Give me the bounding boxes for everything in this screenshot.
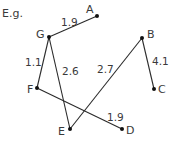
node-d-dot [120, 127, 124, 131]
node-f-dot [35, 86, 39, 90]
edge-g-e [49, 37, 70, 129]
node-b-dot [140, 36, 144, 40]
node-f-label: F [27, 83, 33, 96]
edge-weight-label: 2.7 [97, 63, 114, 75]
edge-weight-label: 1.9 [61, 16, 78, 28]
node-d-label: D [126, 124, 134, 137]
node-b-label: B [147, 28, 155, 41]
node-e-label: E [58, 125, 65, 138]
caption-label: E.g. [2, 7, 23, 20]
node-g-dot [47, 35, 51, 39]
edge-b-e [70, 38, 142, 129]
node-c-label: C [158, 83, 166, 96]
edge-weight-label: 1.9 [107, 111, 124, 123]
edge-weight-label: 4.1 [152, 55, 169, 67]
graph-canvas: E.g. 1.91.12.62.74.11.9 ABCDEFG [0, 0, 174, 145]
node-c-dot [152, 87, 156, 91]
node-a-label: A [86, 3, 94, 16]
node-a-dot [95, 14, 99, 18]
graph-diagram: E.g. 1.91.12.62.74.11.9 ABCDEFG [0, 0, 174, 145]
node-e-dot [68, 127, 72, 131]
edge-weight-label: 1.1 [25, 56, 42, 68]
node-g-label: G [36, 28, 45, 41]
edge-weight-label: 2.6 [62, 65, 79, 77]
